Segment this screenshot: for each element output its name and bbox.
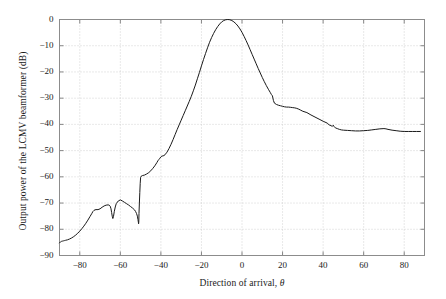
y-tick-label: −30 [24,92,54,102]
x-tick-label: −60 [100,260,140,270]
x-tick-label: 40 [303,260,343,270]
theta-symbol: θ [280,278,285,288]
figure-background [0,0,446,299]
x-tick-label: 0 [222,260,262,270]
chart-figure: Output power of the LCMV beamformer (dB)… [0,0,446,299]
y-tick-label: −70 [24,197,54,207]
beamformer-pattern-plot [0,0,446,299]
y-tick-label: −20 [24,66,54,76]
y-axis-label: Output power of the LCMV beamformer (dB) [18,31,28,251]
x-axis-label-text: Direction of arrival, [199,278,279,288]
x-axis-label: Direction of arrival, θ [59,278,425,288]
y-tick-label: −90 [24,250,54,260]
x-tick-label: 20 [263,260,303,270]
x-tick-label: −20 [181,260,221,270]
x-tick-label: 60 [344,260,384,270]
x-tick-label: −80 [60,260,100,270]
y-tick-label: −80 [24,223,54,233]
y-tick-label: −60 [24,171,54,181]
y-tick-label: −10 [24,40,54,50]
y-tick-label: 0 [24,14,54,24]
y-tick-label: −50 [24,145,54,155]
x-tick-label: 80 [384,260,424,270]
x-tick-label: −40 [141,260,181,270]
y-tick-label: −40 [24,118,54,128]
